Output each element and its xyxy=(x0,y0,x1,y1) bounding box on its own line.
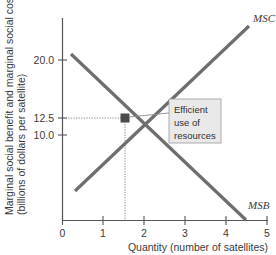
x-tick-label-1: 1 xyxy=(100,227,106,239)
y-axis-title-line2: (billions of dollars per satellite) xyxy=(15,74,27,215)
callout-text-line1: Efficient xyxy=(174,104,208,115)
x-tick-label-3: 3 xyxy=(182,227,188,239)
callout-text-line3: resources xyxy=(174,130,216,141)
y-tick-label-12-5: 12.5 xyxy=(34,112,55,124)
msc-curve-label: MSC xyxy=(252,12,276,24)
economics-chart-figure: 20.0 12.5 10.0 0 1 2 3 4 5 Quantity (num… xyxy=(0,0,276,255)
chart-canvas: 20.0 12.5 10.0 0 1 2 3 4 5 Quantity (num… xyxy=(0,0,276,255)
x-tick-label-0: 0 xyxy=(60,227,66,239)
msc-curve xyxy=(75,26,249,191)
x-tick-label-2: 2 xyxy=(141,227,147,239)
y-axis-title-line1: Marginal social benefit and marginal soc… xyxy=(3,0,15,215)
x-tick-label-5: 5 xyxy=(264,227,270,239)
y-tick-label-10: 10.0 xyxy=(34,129,55,141)
equilibrium-marker xyxy=(121,114,130,123)
y-tick-label-20: 20.0 xyxy=(34,54,55,66)
callout-text-line2: use of xyxy=(174,117,200,128)
msb-curve-label: MSB xyxy=(247,199,270,211)
x-tick-label-4: 4 xyxy=(223,227,229,239)
x-axis-title: Quantity (number of satellites) xyxy=(128,241,268,253)
